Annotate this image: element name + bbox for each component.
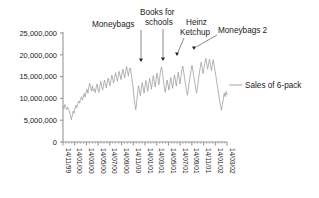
annotation-label-moneybags: Moneybags [92,20,134,29]
line-chart: 25,000,00020,000,00015,000,00010,000,000… [0,0,319,198]
x-axis-tick-label: 14/05/01 [170,148,177,174]
x-axis-tick-label: 14/09/01 [193,148,200,174]
y-axis-tick-label: 0 [53,138,57,147]
data-series-group [63,58,227,119]
x-axis-tick-label: 14/01/02 [217,148,224,174]
chart-legend: Sales of 6-pack [229,81,302,90]
y-axis: 25,000,00020,000,00015,000,00010,000,000… [19,29,63,147]
annotation-leader-heinz-ketchup [178,38,184,52]
x-axis-tick-label: 14/03/00 [88,148,95,174]
x-axis-tick-label: 14/01/00 [76,148,83,174]
y-axis-tick-label: 15,000,000 [19,72,57,81]
chart-container: 25,000,00020,000,00015,000,00010,000,000… [0,0,319,198]
legend-label: Sales of 6-pack [245,81,302,90]
x-axis-tick-label: 14/05/00 [100,148,107,174]
annotation-label-heinz-ketchup-line1: Heinz [186,18,207,27]
x-axis-tick-label: 14/11/01 [205,148,212,174]
annotation-label-books-for-schools-line2: schools [145,18,173,27]
series-line-sales-of-6-pack [63,58,227,119]
annotation-arrowhead [161,58,165,61]
x-axis-tick-label: 14/01/01 [147,148,154,174]
x-axis-tick-label: 14/11/99 [65,148,72,174]
y-axis-tick-label: 20,000,000 [19,51,57,60]
x-axis: 14/11/9914/01/0014/03/0014/05/0014/07/00… [63,142,236,174]
x-axis-tick-label: 14/07/00 [111,148,118,174]
annotations-group: MoneybagsBooks forschoolsHeinzKetchupMon… [92,8,268,62]
annotation-arrowhead [192,47,196,50]
annotation-label-books-for-schools-line1: Books for [140,8,175,17]
x-axis-tick-label: 14/09/00 [123,148,130,174]
x-axis-tick-label: 14/03/02 [229,148,236,174]
y-axis-tick-label: 10,000,000 [19,94,57,103]
annotation-label-heinz-ketchup-line2: Ketchup [180,28,210,37]
annotation-arrowhead [139,59,143,62]
x-axis-tick-label: 14/03/01 [158,148,165,174]
annotation-arrowhead [175,53,179,56]
x-axis-tick-label: 14/11/00 [135,148,142,174]
x-axis-tick-label: 14/07/01 [182,148,189,174]
y-axis-tick-label: 5,000,000 [24,116,57,125]
annotation-label-moneybags-2: Moneybags 2 [218,26,268,35]
y-axis-tick-label: 25,000,000 [19,29,57,38]
